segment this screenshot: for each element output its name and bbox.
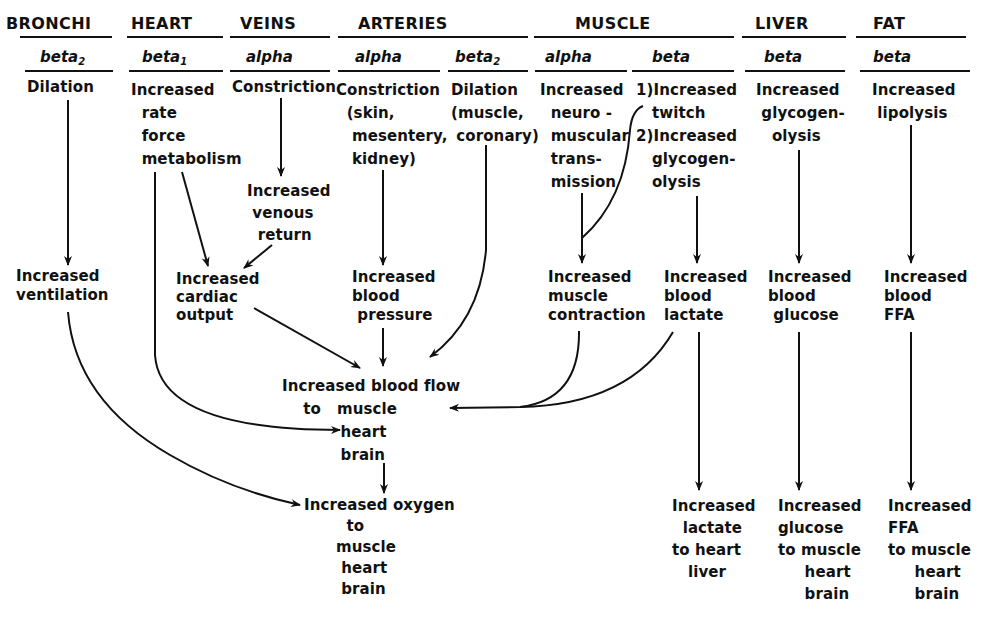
arrow-twitch-to-contraction [582, 106, 643, 238]
arrow-cardiac-output-to-blood-flow [254, 308, 360, 368]
arrow-heart-to-cardiac-output [182, 172, 208, 266]
arrow-ventilation-to-oxygen [68, 312, 300, 505]
arrow-contraction-to-blood-flow [450, 331, 579, 408]
arrow-lactate-to-blood-flow [520, 332, 673, 407]
arrow-venous-return-to-cardiac-output [244, 245, 272, 268]
arrow-arteries-beta-to-blood-flow [430, 145, 486, 357]
arrows-layer [0, 0, 999, 618]
arrow-heart-to-blood-flow [155, 172, 340, 430]
